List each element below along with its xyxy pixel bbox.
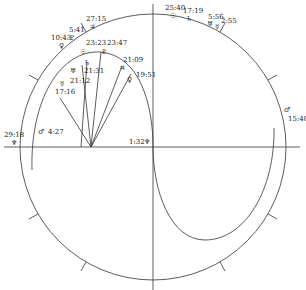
- inner-loop-lower: [153, 128, 274, 240]
- neptune-inner-icon: ♆: [144, 138, 150, 146]
- horoscope-chart: 10:43 ♀ 5:41 ♇ 27:15 ♃ 25:40 ☉ 17:19 ♄ 5…: [0, 0, 306, 290]
- neptune-icon: ♆: [11, 139, 17, 147]
- pluto-inner-label: 23:47: [107, 39, 127, 47]
- saturn-icon: ♄: [186, 15, 192, 23]
- mercury-inner-icon: ☿: [60, 80, 64, 88]
- mercury-inner-label: 17:16: [55, 88, 76, 96]
- mars-inner-icon: ♂: [38, 128, 44, 136]
- pluto-icon: ♇: [69, 34, 75, 42]
- neptune-outer-label: 29:18: [4, 131, 24, 139]
- saturn-outer-label: 17:19: [183, 7, 203, 15]
- saturn-inner-label: 21:31: [84, 67, 104, 75]
- mars-outer-label: 15:40: [288, 115, 306, 123]
- sun-inner-icon: ☉: [80, 48, 86, 56]
- uranus-inner-icon: ♅: [70, 67, 76, 75]
- neptune-inner-label: 1:32: [129, 138, 145, 146]
- mercury-icon: ☿: [215, 23, 219, 31]
- jupiter-inner-label: 21:09: [123, 56, 143, 64]
- mars-inner-label: 4:27: [48, 128, 64, 136]
- sun-inner-label: 23:23: [86, 39, 106, 47]
- jupiter-inner-icon: ♃: [119, 64, 125, 72]
- jupiter-icon: ♃: [89, 23, 95, 31]
- uranus-inner-label: 21:12: [70, 77, 90, 85]
- mercury-outer-label: 2:55: [221, 17, 237, 25]
- venus-icon: ♀: [59, 42, 64, 50]
- pluto-outer-label: 5:41: [69, 26, 85, 34]
- pluto-inner-icon: ♇: [101, 48, 107, 56]
- venus-inner-icon: ♀: [127, 76, 132, 84]
- jupiter-outer-label: 27:15: [86, 15, 106, 23]
- saturn-inner-icon: ♄: [84, 59, 90, 67]
- uranus-icon: ♅: [207, 20, 213, 28]
- venus-inner-label: 19:51: [136, 71, 156, 79]
- mars-icon: ♂: [284, 106, 290, 114]
- sun-icon: ☉: [170, 12, 176, 20]
